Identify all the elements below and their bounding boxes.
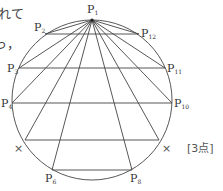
label-P6: P6 xyxy=(45,172,56,185)
label-P11: P11 xyxy=(167,62,182,75)
fan-line-P10 xyxy=(92,20,172,103)
circle-diagram: P1 P2 P3 P4 × P6 P8 × P10 P11 P12 xyxy=(0,0,223,191)
circle xyxy=(12,20,172,180)
cross-mark-right: × xyxy=(162,142,171,155)
fan-line-P4 xyxy=(12,20,92,103)
cross-mark-left: × xyxy=(14,142,23,155)
fan-line-X-left xyxy=(25,20,92,140)
label-P12: P12 xyxy=(141,27,156,40)
label-P1: P1 xyxy=(87,3,98,16)
point-P1-dot xyxy=(90,18,93,21)
label-P4: P4 xyxy=(1,97,12,110)
label-P8: P8 xyxy=(130,172,141,185)
score-label: [3点] xyxy=(187,139,214,155)
label-P10: P10 xyxy=(174,97,189,110)
label-P2: P2 xyxy=(34,21,45,34)
label-P3: P3 xyxy=(7,62,18,75)
